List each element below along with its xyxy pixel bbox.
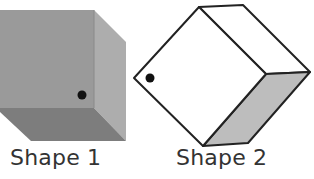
shape-2-label: Shape 2 — [176, 145, 267, 170]
shape-2-cube — [134, 5, 310, 146]
shape-1-label: Shape 1 — [10, 145, 101, 170]
shape-1-dot — [78, 91, 87, 100]
shape-2-dot — [146, 74, 155, 83]
shape-1-cube — [0, 10, 126, 141]
